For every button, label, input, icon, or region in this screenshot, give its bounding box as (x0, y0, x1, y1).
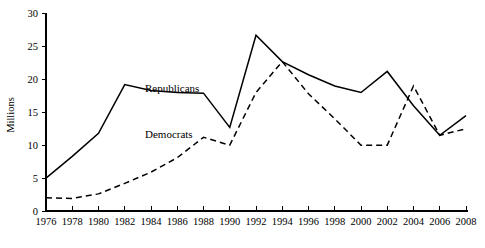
y-axis-title: Millions (5, 97, 16, 133)
x-tick-label: 1994 (272, 216, 294, 227)
x-tick-label: 2004 (403, 216, 425, 227)
x-tick-label: 1990 (219, 216, 240, 227)
x-tick-label: 2000 (351, 216, 372, 227)
x-axis-group: 1976197819801982198419861988199019921994… (36, 206, 477, 227)
x-axis-ticks: 1976197819801982198419861988199019921994… (36, 206, 477, 227)
x-tick-label: 1998 (324, 216, 345, 227)
y-tick-label: 5 (33, 173, 38, 184)
series-label-democrats: Democrats (145, 128, 193, 140)
x-tick-label: 1996 (298, 216, 319, 227)
x-tick-label: 1984 (141, 216, 163, 227)
x-tick-label: 1988 (193, 216, 214, 227)
y-tick-label: 0 (33, 206, 38, 217)
y-tick-label: 20 (28, 74, 39, 85)
x-tick-label: 2006 (429, 216, 450, 227)
x-tick-label: 1978 (62, 216, 83, 227)
y-tick-label: 30 (28, 8, 39, 19)
x-tick-label: 2002 (377, 216, 398, 227)
series-line-democrats (46, 62, 466, 199)
x-tick-label: 1992 (246, 216, 267, 227)
line-chart-figure: 051015202530 Millions 197619781980198219… (0, 0, 485, 248)
x-tick-label: 1980 (88, 216, 109, 227)
series-line-republicans (46, 35, 466, 178)
y-axis-group: 051015202530 Millions (5, 8, 46, 217)
series-group (46, 35, 466, 198)
y-tick-label: 10 (28, 140, 39, 151)
x-tick-label: 1986 (167, 216, 188, 227)
series-annotations: Republicans Democrats (145, 82, 199, 140)
y-tick-label: 15 (28, 107, 39, 118)
x-tick-label: 1976 (36, 216, 57, 227)
x-tick-label: 2008 (456, 216, 477, 227)
chart-canvas: 051015202530 Millions 197619781980198219… (0, 0, 485, 248)
series-label-republicans: Republicans (145, 82, 199, 94)
y-tick-label: 25 (28, 41, 39, 52)
y-axis-ticks: 051015202530 (28, 8, 47, 217)
x-tick-label: 1982 (114, 216, 135, 227)
